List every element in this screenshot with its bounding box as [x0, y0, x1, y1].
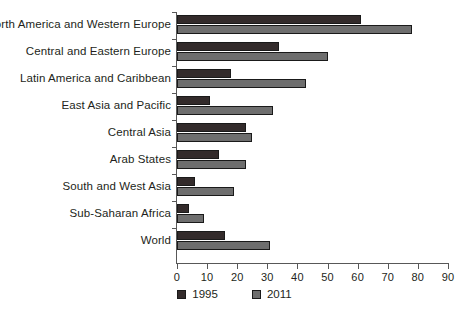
bar-2011 — [177, 52, 328, 61]
category-tick — [172, 174, 177, 175]
legend-item: 1995 — [177, 288, 218, 300]
category-label: Central and Eastern Europe — [26, 45, 171, 57]
value-tick — [267, 264, 268, 269]
value-tick-label: 80 — [403, 271, 433, 283]
bar-group: North America and Western Europe — [177, 12, 448, 39]
bar-2011 — [177, 241, 270, 250]
value-tick — [177, 264, 178, 269]
category-tick — [172, 147, 177, 148]
category-label: Latin America and Caribbean — [20, 72, 171, 84]
bar-group: Central Asia — [177, 120, 448, 147]
value-tick-label: 0 — [162, 271, 192, 283]
bar-1995 — [177, 15, 361, 24]
bar-2011 — [177, 214, 204, 223]
value-tick — [448, 264, 449, 269]
category-tick — [172, 201, 177, 202]
bar-group: South and West Asia — [177, 174, 448, 201]
bar-2011 — [177, 106, 273, 115]
value-tick-label: 90 — [433, 271, 463, 283]
bar-2011 — [177, 79, 306, 88]
bar-1995 — [177, 69, 231, 78]
bar-2011 — [177, 25, 412, 34]
value-tick-label: 50 — [313, 271, 343, 283]
category-label: Central Asia — [108, 126, 171, 138]
bar-group: Central and Eastern Europe — [177, 39, 448, 66]
value-tick — [388, 264, 389, 269]
category-tick — [172, 120, 177, 121]
value-tick-label: 70 — [373, 271, 403, 283]
value-tick — [297, 264, 298, 269]
value-tick — [207, 264, 208, 269]
value-tick — [358, 264, 359, 269]
bar-group: Arab States — [177, 147, 448, 174]
category-tick — [172, 66, 177, 67]
category-tick — [172, 39, 177, 40]
category-tick — [172, 228, 177, 229]
legend-label: 1995 — [192, 288, 218, 300]
bar-1995 — [177, 177, 195, 186]
bar-group: Sub-Saharan Africa — [177, 201, 448, 228]
value-tick-label: 20 — [222, 271, 252, 283]
category-label: Arab States — [110, 153, 171, 165]
legend-label: 2011 — [267, 288, 292, 300]
bar-2011 — [177, 187, 234, 196]
category-label: East Asia and Pacific — [62, 99, 172, 111]
bar-1995 — [177, 231, 225, 240]
value-tick — [328, 264, 329, 269]
value-tick-label: 10 — [192, 271, 222, 283]
bar-group: East Asia and Pacific — [177, 93, 448, 120]
value-tick-label: 40 — [282, 271, 312, 283]
category-tick — [172, 93, 177, 94]
bar-1995 — [177, 123, 246, 132]
category-label: Sub-Saharan Africa — [69, 207, 171, 219]
legend-swatch-icon — [177, 290, 186, 299]
bar-group: Latin America and Caribbean — [177, 66, 448, 93]
value-tick-label: 60 — [343, 271, 373, 283]
value-tick — [237, 264, 238, 269]
value-tick — [418, 264, 419, 269]
category-label: North America and Western Europe — [0, 18, 171, 30]
bar-2011 — [177, 160, 246, 169]
value-tick-label: 30 — [252, 271, 282, 283]
category-label: South and West Asia — [63, 180, 171, 192]
bar-chart: 0102030405060708090 North America and We… — [0, 0, 469, 315]
bar-1995 — [177, 150, 219, 159]
bar-2011 — [177, 133, 252, 142]
bar-1995 — [177, 42, 279, 51]
bar-group: World — [177, 228, 448, 255]
category-label: World — [141, 234, 171, 246]
legend-item: 2011 — [252, 288, 292, 300]
category-tick — [172, 12, 177, 13]
legend-swatch-icon — [252, 290, 261, 299]
bar-1995 — [177, 96, 210, 105]
chart-legend: 19952011 — [0, 288, 469, 300]
bar-1995 — [177, 204, 189, 213]
